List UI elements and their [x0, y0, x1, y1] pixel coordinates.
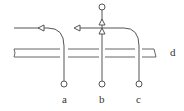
arrow-left-icon: [74, 25, 80, 31]
channel-d: [14, 49, 156, 57]
label-b: b: [99, 93, 105, 105]
label-a: a: [62, 93, 67, 105]
label-c: c: [136, 93, 141, 105]
label-d: d: [170, 46, 176, 58]
arrow-left-icon: [38, 25, 44, 31]
path-b: [99, 4, 105, 87]
diagram-canvas: a b c d: [0, 0, 184, 111]
arrow-up-icon: [99, 19, 105, 25]
arrow-up-icon: [99, 28, 105, 34]
